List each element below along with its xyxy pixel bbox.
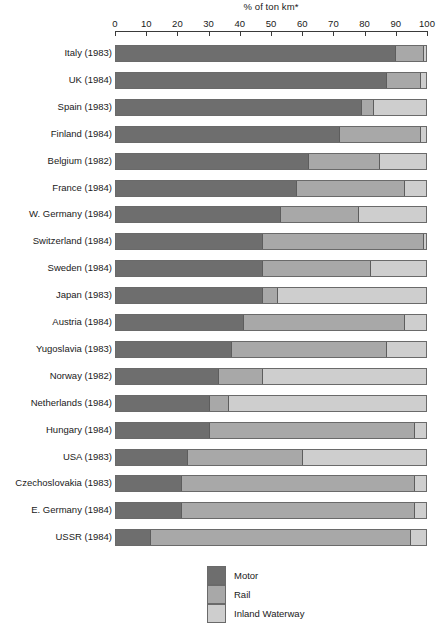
bar-category-label: Belgium (1982) [48, 155, 112, 167]
plot-area: Italy (1983)UK (1984)Spain (1983)Finland… [0, 0, 441, 566]
bar-segment-inland-waterway [414, 503, 426, 518]
bar-category-label: Spain (1983) [58, 101, 112, 113]
bar-row: UK (1984) [0, 72, 441, 89]
x-tick-mark-100 [427, 31, 428, 36]
bar-category-label: W. Germany (1984) [29, 208, 112, 220]
bar-segment-motor [116, 530, 150, 545]
bar-segment-inland-waterway [386, 342, 426, 357]
bar-row: Yugoslavia (1983) [0, 341, 441, 358]
bar-segment-rail [187, 450, 302, 465]
legend-swatch-motor [207, 566, 226, 585]
x-tick-mark-0 [115, 31, 116, 36]
bar-row: Czechoslovakia (1983) [0, 475, 441, 492]
bar-track [115, 422, 427, 439]
bar-category-label: Finland (1984) [51, 128, 112, 140]
bar-row: USA (1983) [0, 449, 441, 466]
bar-segment-motor [116, 423, 209, 438]
bar-segment-rail [218, 369, 261, 384]
x-tick-mark-40 [240, 31, 241, 36]
legend-item: Rail [207, 585, 387, 604]
bar-track [115, 45, 427, 62]
bar-row: Japan (1983) [0, 287, 441, 304]
bar-segment-inland-waterway [420, 127, 426, 142]
bar-track [115, 180, 427, 197]
bar-track [115, 395, 427, 412]
footnote-strip [0, 626, 441, 631]
bar-segment-inland-waterway [370, 261, 426, 276]
bar-segment-motor [116, 46, 395, 61]
bar-category-label: Austria (1984) [52, 316, 112, 328]
x-tick-mark-10 [146, 31, 147, 36]
x-tick-mark-80 [365, 31, 366, 36]
bar-segment-inland-waterway [358, 207, 426, 222]
bar-segment-motor [116, 234, 262, 249]
bar-category-label: E. Germany (1984) [31, 504, 112, 516]
bar-segment-rail [231, 342, 386, 357]
bar-segment-rail [308, 154, 379, 169]
bar-row: Finland (1984) [0, 126, 441, 143]
bar-segment-motor [116, 261, 262, 276]
bar-segment-rail [262, 261, 371, 276]
bar-segment-rail [262, 288, 278, 303]
bar-row: Netherlands (1984) [0, 395, 441, 412]
bar-category-label: Yugoslavia (1983) [36, 343, 112, 355]
bar-segment-inland-waterway [373, 100, 426, 115]
bar-segment-motor [116, 100, 361, 115]
bar-track [115, 126, 427, 143]
bar-category-label: Sweden (1984) [48, 262, 112, 274]
legend-label: Rail [234, 589, 250, 600]
bar-category-label: Switzerland (1984) [33, 235, 112, 247]
bar-row: Belgium (1982) [0, 153, 441, 170]
x-tick-mark-60 [302, 31, 303, 36]
bar-track [115, 368, 427, 385]
bar-row: W. Germany (1984) [0, 206, 441, 223]
bar-segment-rail [181, 476, 414, 491]
bar-row: Austria (1984) [0, 314, 441, 331]
bar-segment-motor [116, 181, 296, 196]
bar-segment-motor [116, 396, 209, 411]
bar-segment-rail [361, 100, 373, 115]
bar-row: Spain (1983) [0, 99, 441, 116]
bar-track [115, 314, 427, 331]
bar-segment-rail [395, 46, 423, 61]
bar-segment-motor [116, 315, 243, 330]
bar-track [115, 341, 427, 358]
bar-segment-motor [116, 342, 231, 357]
bar-segment-inland-waterway [404, 181, 426, 196]
bar-category-label: Hungary (1984) [46, 424, 112, 436]
bar-category-label: Italy (1983) [64, 47, 112, 59]
legend-label: Motor [234, 570, 258, 581]
bar-segment-motor [116, 369, 218, 384]
bar-row: Hungary (1984) [0, 422, 441, 439]
chart-legend: MotorRailInland Waterway [207, 566, 387, 623]
bar-segment-motor [116, 207, 280, 222]
bar-row: France (1984) [0, 180, 441, 197]
legend-swatch-rail [207, 585, 226, 604]
bar-segment-rail [150, 530, 410, 545]
bar-segment-motor [116, 127, 339, 142]
bar-segment-inland-waterway [423, 46, 426, 61]
bar-row: USSR (1984) [0, 529, 441, 546]
bar-category-label: Czechoslovakia (1983) [15, 477, 112, 489]
bar-category-label: France (1984) [52, 182, 112, 194]
x-tick-mark-90 [396, 31, 397, 36]
bar-segment-inland-waterway [423, 234, 426, 249]
bar-segment-inland-waterway [228, 396, 426, 411]
bar-segment-rail [243, 315, 404, 330]
bar-segment-rail [280, 207, 358, 222]
bar-segment-motor [116, 288, 262, 303]
legend-label: Inland Waterway [234, 608, 304, 619]
bar-segment-motor [116, 450, 187, 465]
bar-segment-rail [386, 73, 420, 88]
bar-track [115, 72, 427, 89]
bar-segment-rail [209, 396, 228, 411]
bar-segment-rail [209, 423, 414, 438]
bar-track [115, 99, 427, 116]
bar-segment-inland-waterway [420, 73, 426, 88]
x-tick-mark-20 [177, 31, 178, 36]
bar-category-label: USA (1983) [63, 451, 112, 463]
bar-segment-motor [116, 73, 386, 88]
bar-track [115, 449, 427, 466]
bar-row: Switzerland (1984) [0, 233, 441, 250]
stacked-bar-chart: % of ton km* 0102030405060708090100 Ital… [0, 0, 441, 631]
